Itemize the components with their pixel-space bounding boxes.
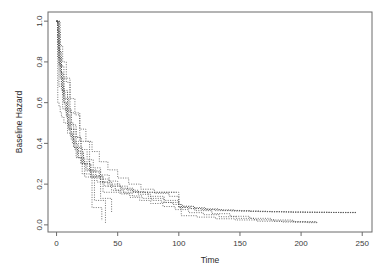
y-tick-label: 0.4 bbox=[35, 137, 44, 149]
y-tick-label: 0.6 bbox=[35, 97, 44, 109]
series-line-curve-2 bbox=[57, 21, 317, 223]
x-tick-label: 0 bbox=[54, 239, 59, 248]
x-tick-label: 200 bbox=[294, 239, 308, 248]
x-tick-label: 150 bbox=[233, 239, 247, 248]
y-tick-label: 0.8 bbox=[35, 56, 44, 68]
x-tick-label: 50 bbox=[113, 239, 122, 248]
series-line-curve-1 bbox=[57, 21, 357, 212]
chart-figure: 0501001502002500.00.20.40.60.81.0 TimeBa… bbox=[0, 0, 392, 277]
y-tick-label: 0.2 bbox=[35, 178, 44, 190]
series-line-curve-9 bbox=[57, 21, 357, 212]
series-line-curve-3 bbox=[57, 21, 357, 212]
x-tick-label: 250 bbox=[356, 239, 370, 248]
series-line-curve-4 bbox=[57, 21, 316, 223]
axis-tick-labels: 0501001502002500.00.20.40.60.81.0 bbox=[35, 15, 369, 248]
plot-frame bbox=[48, 12, 372, 232]
series-line-curve-7-step bbox=[57, 21, 102, 221]
y-tick-label: 1.0 bbox=[35, 15, 44, 27]
x-tick-label: 100 bbox=[172, 239, 186, 248]
plot-box-border bbox=[48, 12, 372, 232]
y-tick-label: 0.0 bbox=[35, 219, 44, 231]
axis-ticks bbox=[44, 21, 362, 236]
y-axis-title: Baseline Hazard bbox=[14, 91, 24, 154]
data-series-group bbox=[57, 21, 357, 223]
baseline-hazard-plot: 0501001502002500.00.20.40.60.81.0 TimeBa… bbox=[0, 0, 392, 277]
series-line-curve-10 bbox=[57, 21, 317, 223]
x-axis-title: Time bbox=[201, 255, 220, 265]
